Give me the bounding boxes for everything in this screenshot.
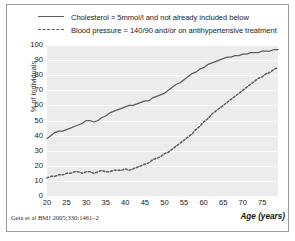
x-axis-title: Age (years) xyxy=(240,212,285,221)
x-tick-label: 45 xyxy=(135,198,155,207)
x-tick-label: 55 xyxy=(174,198,194,207)
x-axis-ticks: 202530354045505560657075 xyxy=(47,198,278,210)
y-tick-label: 10 xyxy=(21,177,43,185)
x-tick-label: 70 xyxy=(233,198,253,207)
x-tick-label: 75 xyxy=(252,198,272,207)
x-tick-label: 20 xyxy=(37,198,57,207)
series-line-cholesterol xyxy=(47,50,278,139)
gridline xyxy=(47,196,278,197)
y-tick-label: 50 xyxy=(21,117,43,125)
x-tick-label: 25 xyxy=(57,198,77,207)
x-tick-label: 40 xyxy=(115,198,135,207)
legend-line-dashed-icon xyxy=(38,25,64,35)
x-tick-label: 35 xyxy=(96,198,116,207)
legend-label-blood-pressure: Blood pressure = 140/90 and/or on antihy… xyxy=(71,26,277,35)
y-tick-label: 70 xyxy=(21,86,43,94)
x-tick-label: 65 xyxy=(213,198,233,207)
series-line-blood-pressure xyxy=(47,68,278,178)
legend-line-solid-icon xyxy=(38,12,64,22)
y-tick-label: 40 xyxy=(21,132,43,140)
y-tick-label: 100 xyxy=(21,41,43,49)
x-tick-label: 30 xyxy=(76,198,96,207)
y-tick-label: 90 xyxy=(21,56,43,64)
series-lines xyxy=(47,45,278,196)
y-tick-label: 60 xyxy=(21,101,43,109)
source-citation: Getz et al BMJ 2005;330:1461–2 xyxy=(11,214,99,221)
legend-item-blood-pressure: Blood pressure = 140/90 and/or on antihy… xyxy=(38,24,283,36)
y-tick-label: 30 xyxy=(21,147,43,155)
x-tick-label: 50 xyxy=(154,198,174,207)
figure-container: Cholesterol = 5mmol/l and not already in… xyxy=(0,0,295,241)
y-tick-label: 20 xyxy=(21,162,43,170)
legend-item-cholesterol: Cholesterol = 5mmol/l and not already in… xyxy=(38,11,283,23)
x-tick-label: 60 xyxy=(194,198,214,207)
plot-area xyxy=(47,45,278,196)
legend-label-cholesterol: Cholesterol = 5mmol/l and not already in… xyxy=(71,13,249,22)
chart-legend: Cholesterol = 5mmol/l and not already in… xyxy=(38,11,283,37)
y-tick-label: 80 xyxy=(21,71,43,79)
y-axis-ticks: 0102030405060708090100 xyxy=(19,45,43,196)
